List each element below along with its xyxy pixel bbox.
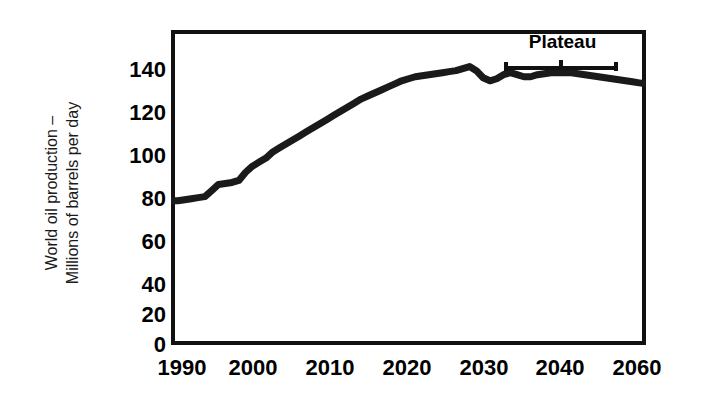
x-tick-label: 2020 xyxy=(367,356,447,380)
plateau-annotation-label: Plateau xyxy=(505,32,620,52)
plateau-bracket-icon xyxy=(504,60,618,72)
x-tick-label: 2000 xyxy=(213,356,293,380)
x-tick-label: 2010 xyxy=(290,356,370,380)
chart-figure: World oil production – Millions of barre… xyxy=(0,0,711,408)
bracket-center-tick xyxy=(559,60,563,67)
x-tick-label: 1990 xyxy=(142,356,222,380)
x-tick-label: 2040 xyxy=(520,356,600,380)
bracket-right-tick xyxy=(614,62,618,71)
x-tick-label: 2060 xyxy=(597,356,677,380)
plot-area-frame xyxy=(171,30,646,345)
x-tick-label: 2030 xyxy=(444,356,524,380)
